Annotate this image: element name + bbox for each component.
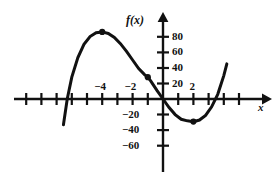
- marked-point: [99, 29, 105, 35]
- y-axis-arrowhead: [158, 12, 169, 22]
- marked-point: [145, 74, 151, 80]
- y-tick-label-40: 40: [172, 62, 183, 73]
- x-tick-label-2: 2: [189, 81, 195, 92]
- y-tick-label-neg40: −40: [122, 124, 139, 135]
- y-tick-label-20: 20: [172, 78, 183, 89]
- function-graph-figure: f(x) x 80604020−20−40−60−4−22: [0, 0, 278, 178]
- marked-point: [190, 119, 196, 125]
- y-tick-label-80: 80: [172, 31, 183, 42]
- x-tick-label-neg4: −4: [94, 81, 106, 92]
- y-axis-label: f(x): [126, 14, 144, 26]
- y-tick-label-60: 60: [172, 46, 183, 57]
- y-tick-label-neg20: −20: [122, 109, 139, 120]
- x-axis-label: x: [258, 102, 264, 113]
- y-tick-label-neg60: −60: [122, 140, 139, 151]
- x-tick-label-neg2: −2: [125, 81, 137, 92]
